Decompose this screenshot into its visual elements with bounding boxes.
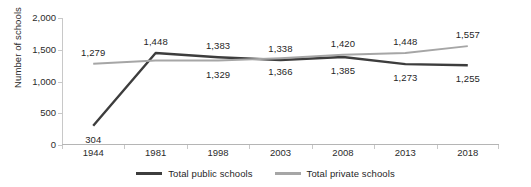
y-axis-tick-label: 500 [22, 107, 56, 118]
y-axis-tick-mark [58, 113, 62, 114]
x-axis-tick-label: 2008 [332, 147, 353, 158]
data-point-label: 1,279 [81, 46, 105, 57]
legend-label: Total public schools [168, 168, 252, 179]
y-axis-title: Number of schools [12, 0, 23, 108]
y-axis-tick-mark [58, 50, 62, 51]
legend-line-swatch [275, 172, 301, 174]
x-axis-tick-label: 2018 [457, 147, 478, 158]
legend-item[interactable]: Total private schools [275, 168, 395, 179]
x-axis-tick-label: 2003 [270, 147, 291, 158]
x-axis-tick-label: 1981 [145, 147, 166, 158]
data-point-label: 1,385 [331, 65, 355, 76]
x-axis-tick-label: 2013 [395, 147, 416, 158]
legend-label: Total private schools [307, 168, 395, 179]
data-point-label: 1,338 [268, 43, 292, 54]
series-line-1 [93, 53, 468, 126]
series-lines [62, 18, 499, 145]
data-point-label: 1,448 [393, 36, 417, 47]
x-axis-tick-labels: 1944198119982003200820132018 [62, 147, 499, 163]
y-axis-tick-mark [58, 18, 62, 19]
x-axis-tick-label: 1944 [83, 147, 104, 158]
data-point-label: 1,255 [456, 73, 480, 84]
x-axis-tick-label: 1998 [207, 147, 228, 158]
y-axis-tick-mark [58, 82, 62, 83]
data-point-label: 1,383 [206, 40, 230, 51]
y-axis-tick-label: 1,000 [22, 76, 56, 87]
legend-line-swatch [136, 172, 162, 174]
data-point-label: 1,557 [456, 29, 480, 40]
legend-item[interactable]: Total public schools [136, 168, 252, 179]
plot-area [62, 18, 499, 145]
chart-legend: Total public schoolsTotal private school… [0, 168, 531, 179]
y-axis-tick-label: 0 [22, 139, 56, 150]
line-chart: Number of schools 05001,0001,5002,000 19… [0, 0, 531, 187]
data-point-label: 1,273 [393, 72, 417, 83]
data-point-label: 304 [85, 133, 101, 144]
data-point-label: 1,420 [331, 37, 355, 48]
y-axis-tick-labels: 05001,0001,5002,000 [22, 0, 56, 187]
y-axis-tick-label: 2,000 [22, 12, 56, 23]
data-point-label: 1,366 [268, 66, 292, 77]
data-point-label: 1,448 [144, 36, 168, 47]
data-point-label: 1,329 [206, 68, 230, 79]
y-axis-tick-label: 1,500 [22, 44, 56, 55]
